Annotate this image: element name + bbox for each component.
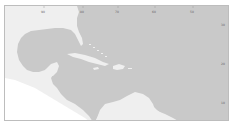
map-frame[interactable] [4, 5, 229, 121]
lon-tick-label: 50 [190, 11, 194, 14]
puerto-rico [128, 68, 132, 69]
lon-tick-label: 60 [152, 11, 156, 14]
lon-tick-label: 80 [80, 11, 84, 14]
map-canvas[interactable] [5, 6, 229, 121]
lat-tick-label: 10 [221, 102, 225, 105]
lat-tick-label: 30 [221, 24, 225, 27]
lon-tick-label: 90 [41, 11, 45, 14]
lat-tick-label: 20 [221, 63, 225, 66]
lon-tick-label: 70 [115, 11, 119, 14]
